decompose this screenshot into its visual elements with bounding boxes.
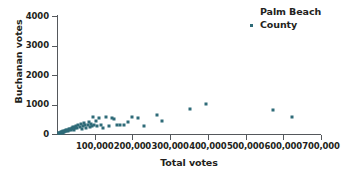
data-point <box>113 117 116 120</box>
data-point <box>94 119 97 122</box>
y-axis-tick-label: 3000 <box>26 41 49 50</box>
x-axis-tick-label: 700,000 <box>296 141 346 151</box>
data-point <box>108 124 111 127</box>
x-axis-tick <box>208 135 209 140</box>
data-point <box>160 120 163 123</box>
chart-legend: Palm Beach County <box>247 6 347 31</box>
data-point <box>119 124 122 127</box>
data-point <box>80 128 83 131</box>
data-point <box>105 116 108 119</box>
x-axis-line <box>57 134 321 135</box>
data-point <box>102 127 105 130</box>
y-axis-title: Buchanan votes <box>13 12 24 112</box>
legend-label: County <box>260 19 297 31</box>
data-point <box>271 109 274 112</box>
legend-entry: County <box>247 19 347 31</box>
data-point <box>123 123 126 126</box>
legend-marker-square-icon <box>250 24 253 27</box>
x-axis-tick <box>321 135 322 140</box>
y-axis-tick-label: 0 <box>43 130 49 139</box>
data-point <box>131 116 134 119</box>
legend-title-line-1: Palm Beach <box>247 6 347 18</box>
x-axis-title: Total votes <box>57 157 321 168</box>
data-point <box>188 107 191 110</box>
plot-area <box>57 16 321 134</box>
x-axis-tick <box>132 135 133 140</box>
data-point <box>97 117 100 120</box>
data-point <box>155 113 158 116</box>
y-axis-tick-label: 4000 <box>26 12 49 21</box>
y-axis-tick-label: 2000 <box>26 71 49 80</box>
data-point <box>290 115 293 118</box>
data-point <box>126 121 129 124</box>
scatter-chart-figure: 01000200030004000100,000200,000300,00040… <box>0 0 348 182</box>
data-point <box>204 103 207 106</box>
x-axis-tick <box>246 135 247 140</box>
data-point <box>137 116 140 119</box>
x-axis-tick <box>170 135 171 140</box>
y-axis-tick-label: 1000 <box>26 100 49 109</box>
x-axis-tick <box>95 135 96 140</box>
data-point <box>143 124 146 127</box>
x-axis-tick <box>283 135 284 140</box>
